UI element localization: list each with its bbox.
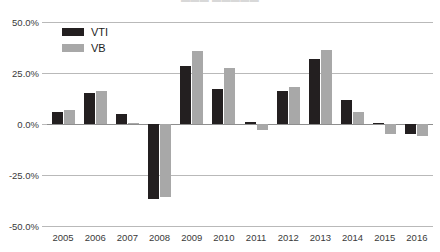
legend-swatch-icon [62,28,84,36]
bar-vb-2007 [128,123,139,124]
bar-vb-2016 [417,124,428,136]
bar-vti-2006 [84,93,95,124]
x-axis-label-2006: 2006 [85,232,106,243]
bar-vti-2012 [277,91,288,124]
bar-vb-2012 [289,87,300,124]
y-axis-tick-mark [42,226,47,227]
legend-label: VB [91,43,106,54]
x-axis-label-2005: 2005 [53,232,74,243]
y-axis-label: 25.0% [12,68,39,79]
bar-vti-2015 [373,123,384,124]
bar-vti-2009 [180,66,191,124]
bar-vti-2011 [245,122,256,124]
x-axis-label-2008: 2008 [149,232,170,243]
bar-vti-2014 [341,100,352,124]
legend-item-vti[interactable]: VTI [62,25,132,39]
bar-chart: ▬▬▬ ▬▬▬▬▬ 50.0%25.0%0.0%-25.0%-50.0% 200… [0,0,440,252]
bar-vti-2008 [148,124,159,199]
bar-vb-2015 [385,124,396,134]
bar-vb-2011 [257,124,268,130]
bar-vb-2008 [160,124,171,197]
bar-vti-2013 [309,59,320,124]
y-axis-label: -25.0% [9,170,39,181]
bar-vti-2005 [52,112,63,124]
x-axis-label-2010: 2010 [213,232,234,243]
x-axis-label-2016: 2016 [406,232,427,243]
y-axis-label: 0.0% [17,119,39,130]
bar-group [144,22,176,226]
bar-group [208,22,240,226]
gridline [47,226,433,227]
x-axis-label-2013: 2013 [310,232,331,243]
bar-vb-2013 [321,50,332,124]
bar-group [337,22,369,226]
bar-group [304,22,336,226]
bar-vb-2006 [96,91,107,124]
bar-group [176,22,208,226]
x-axis-labels: 2005200620072008200920102011201220132014… [47,232,433,248]
bar-vti-2007 [116,114,127,124]
y-axis-label: -50.0% [9,221,39,232]
y-axis-label: 50.0% [12,17,39,28]
bar-vb-2010 [224,68,235,124]
legend-label: VTI [91,27,108,38]
legend-swatch-icon [62,44,84,52]
chart-legend: VTIVB [62,25,132,57]
bar-vb-2005 [64,110,75,124]
bar-group [240,22,272,226]
bar-group [401,22,433,226]
chart-title-fragment: ▬▬▬ ▬▬▬▬▬ [0,0,440,3]
x-axis-label-2014: 2014 [342,232,363,243]
x-axis-label-2011: 2011 [246,232,266,243]
bar-vti-2010 [212,89,223,124]
x-axis-label-2009: 2009 [181,232,202,243]
bar-vb-2009 [192,51,203,124]
legend-item-vb[interactable]: VB [62,41,132,55]
bar-vti-2016 [405,124,416,134]
bar-group [272,22,304,226]
x-axis-label-2015: 2015 [374,232,395,243]
bar-vb-2014 [353,112,364,124]
x-axis-label-2012: 2012 [278,232,299,243]
bar-group [369,22,401,226]
x-axis-label-2007: 2007 [117,232,138,243]
